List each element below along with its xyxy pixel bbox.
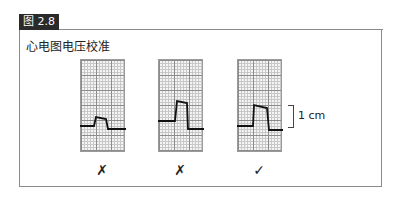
ecg-grid-panel-2 [158,59,203,152]
calibration-pulse-correct-icon [237,59,284,154]
correct-mark-panel-3: ✓ [249,162,269,178]
scale-label: 1 cm [298,109,325,122]
incorrect-mark-panel-2: ✗ [170,162,190,178]
calibration-pulse-under-icon [80,59,127,154]
figure-title: 心电图电压校准 [26,37,110,54]
ecg-grid-panel-3 [237,59,282,152]
incorrect-mark-panel-1: ✗ [92,162,112,178]
calibration-pulse-over-icon [158,59,205,154]
scale-bracket-icon [288,105,294,128]
ecg-grid-panel-1 [80,59,125,152]
figure-label: 图 2.8 [19,14,59,30]
